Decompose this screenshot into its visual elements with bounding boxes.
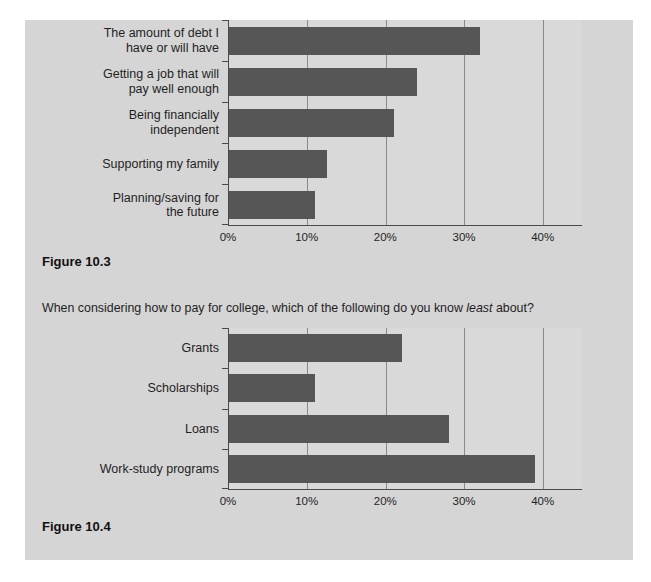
bar-row [229,368,582,408]
x-axis-tick-label: 0% [220,231,237,243]
category-label: Getting a job that will pay well enough [25,61,228,102]
bar [229,150,327,178]
category-label: Grants [25,328,228,369]
x-axis-tick-label: 20% [374,231,397,243]
x-axis-tick-label: 40% [531,495,554,507]
category-label: The amount of debt I have or will have [25,20,228,61]
y-axis-tick [222,61,229,62]
bar [229,334,402,362]
question-text-prefix: When considering how to pay for college,… [42,301,466,315]
y-axis-tick [222,143,229,144]
y-axis-tick [222,328,229,329]
bar [229,109,394,137]
figure-panel: The amount of debt I have or will haveGe… [25,20,633,560]
y-axis-tick [222,224,229,225]
question-text-italic: least [466,301,492,315]
question-text-suffix: about? [492,301,533,315]
x-axis-tick-label: 30% [452,495,475,507]
y-axis-tick [222,20,229,21]
bar [229,374,315,402]
bar-row [229,409,582,449]
y-axis-tick [222,368,229,369]
category-label: Supporting my family [25,144,228,185]
category-label: Work-study programs [25,450,228,491]
bar-row [229,102,582,143]
y-axis-tick [222,409,229,410]
y-axis-tick [222,184,229,185]
x-axis-tick-label: 30% [452,231,475,243]
x-axis-tick-label: 40% [531,231,554,243]
bar-row [229,61,582,102]
figure-caption: Figure 10.3 [42,254,111,269]
bar-chart-figure-10-3: The amount of debt I have or will haveGe… [25,20,582,226]
x-axis-tick-label: 0% [220,495,237,507]
category-label: Scholarships [25,369,228,410]
bar-row [229,449,582,489]
x-axis-tick-label: 10% [295,495,318,507]
plot-area [228,20,582,226]
figure-caption: Figure 10.4 [42,519,111,534]
bar-row [229,328,582,368]
y-axis-tick [222,488,229,489]
bar [229,191,315,219]
bar [229,27,480,55]
category-label: Loans [25,409,228,450]
category-labels: GrantsScholarshipsLoansWork-study progra… [25,328,228,490]
survey-question: When considering how to pay for college,… [42,301,627,315]
category-label: Being financially independent [25,102,228,143]
y-axis-tick [222,102,229,103]
bar [229,68,417,96]
bar-chart-figure-10-4: GrantsScholarshipsLoansWork-study progra… [25,328,582,490]
x-axis-tick-label: 20% [374,495,397,507]
x-axis-labels: 0%10%20%30%40% [228,490,582,510]
bar-row [229,143,582,184]
bar-row [229,20,582,61]
category-labels: The amount of debt I have or will haveGe… [25,20,228,226]
x-axis-labels: 0%10%20%30%40% [228,226,582,246]
plot-area [228,328,582,490]
bar [229,415,449,443]
category-label: Planning/saving for the future [25,185,228,226]
bar-row [229,184,582,225]
document-page: The amount of debt I have or will haveGe… [0,0,651,582]
y-axis-tick [222,449,229,450]
x-axis-tick-label: 10% [295,231,318,243]
bar [229,455,535,483]
